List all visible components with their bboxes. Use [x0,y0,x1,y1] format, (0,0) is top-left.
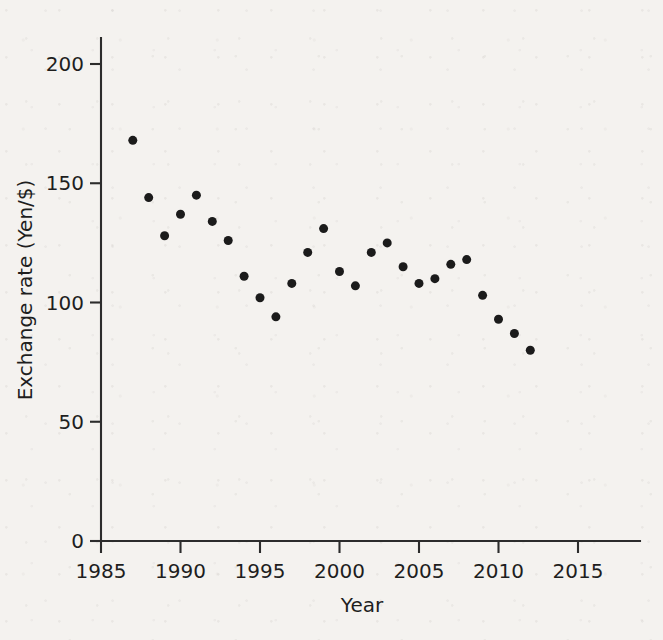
x-tick-label: 2010 [473,559,524,583]
y-axis-ticks: 050100150200 [46,52,101,553]
chart-page: 050100150200 198519901995200020052010201… [0,0,663,640]
scatter-plot: 050100150200 198519901995200020052010201… [0,0,663,640]
data-point [462,255,471,264]
data-point [208,217,217,226]
data-point [256,293,265,302]
data-point [399,262,408,271]
y-tick-label: 0 [71,529,84,553]
data-point [319,224,328,233]
x-tick-label: 2000 [314,559,365,583]
x-tick-label: 2015 [553,559,604,583]
data-points-layer [128,136,535,355]
x-tick-label: 1995 [235,559,286,583]
data-point [478,291,487,300]
data-point [144,193,153,202]
data-point [335,267,344,276]
x-axis-title: Year [340,593,384,617]
data-point [176,210,185,219]
x-tick-label: 2005 [394,559,445,583]
data-point [287,279,296,288]
data-point [303,248,312,257]
data-point [240,272,249,281]
data-point [367,248,376,257]
y-axis-title: Exchange rate (Yen/$) [13,180,37,401]
data-point [351,281,360,290]
data-point [510,329,519,338]
data-point [383,238,392,247]
data-point [128,136,137,145]
data-point [271,312,280,321]
x-tick-label: 1985 [76,559,127,583]
data-point [415,279,424,288]
data-point [494,315,503,324]
x-tick-label: 1990 [155,559,206,583]
y-tick-label: 100 [46,291,84,315]
data-point [224,236,233,245]
y-tick-label: 150 [46,171,84,195]
data-point [446,260,455,269]
data-point [192,191,201,200]
data-point [430,274,439,283]
data-point [160,231,169,240]
y-tick-label: 50 [59,410,84,434]
y-tick-label: 200 [46,52,84,76]
data-point [526,346,535,355]
x-axis-ticks: 1985199019952000200520102015 [76,541,604,583]
